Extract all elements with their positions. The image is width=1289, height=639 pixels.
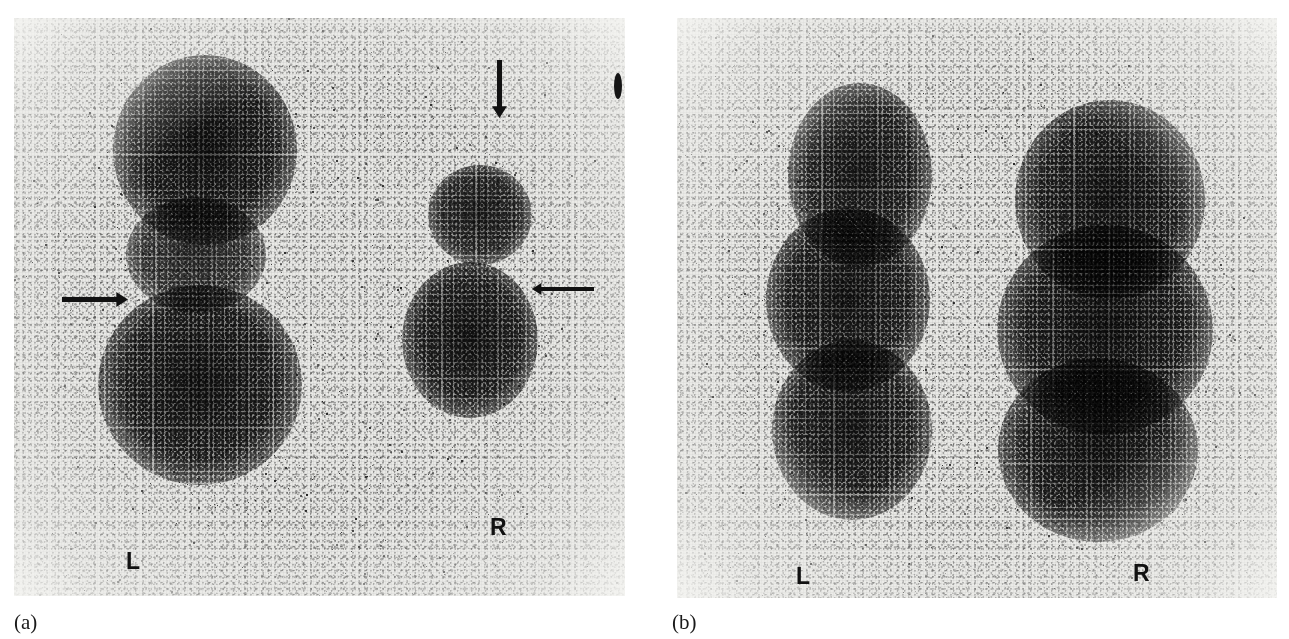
film-grain-fine	[677, 18, 1277, 598]
background-scatter-counts	[677, 18, 1277, 598]
uptake-region-left-kidney-lower	[772, 340, 932, 520]
background-scatter-counts	[14, 18, 625, 596]
scintigram-panel-b: LR	[677, 18, 1277, 598]
panel-caption-a: (a)	[14, 612, 37, 633]
film-grain-coarse	[677, 18, 1277, 598]
photon-speckle-left-kidney-mid	[126, 197, 266, 313]
film-edge-artifact	[614, 73, 622, 99]
photon-speckle-left-kidney-mid	[766, 208, 930, 392]
scintigram-panel-a: LR	[14, 18, 625, 596]
photon-speckle-right-kidney-lower	[998, 358, 1198, 542]
film-vignette	[14, 18, 625, 596]
orientation-marker-r: R	[1133, 562, 1150, 585]
uptake-region-right-kidney-upper-pole	[428, 165, 532, 265]
arrow-right-left-kidney-notch-icon	[62, 292, 128, 307]
halftone-screen	[14, 18, 625, 596]
uptake-region-left-kidney-mid	[126, 197, 266, 313]
photon-speckle-right-kidney-upper	[1015, 100, 1205, 300]
uptake-region-left-kidney-lower-pole	[98, 285, 302, 485]
uptake-region-right-kidney-upper	[1015, 100, 1205, 300]
orientation-marker-l: L	[796, 565, 811, 588]
photon-speckle-left-kidney-lower-pole	[98, 285, 302, 485]
film-grain-coarse	[14, 18, 625, 596]
uptake-region-left-kidney-mid	[766, 208, 930, 392]
orientation-marker-l: L	[126, 550, 141, 573]
orientation-marker-r: R	[490, 516, 507, 539]
photon-speckle-left-kidney-upper-pole	[113, 55, 297, 245]
photon-speckle-right-kidney-mid	[997, 225, 1213, 435]
film-grain-fine	[14, 18, 625, 596]
photon-speckle-right-kidney-upper-pole	[428, 165, 532, 265]
arrow-left-right-kidney-contour-icon	[532, 281, 594, 293]
arrow-down-right-upper-pole-icon	[492, 60, 507, 118]
photon-speckle-right-kidney-lower-pole	[402, 262, 538, 418]
halftone-screen	[677, 18, 1277, 598]
uptake-region-right-kidney-mid	[997, 225, 1213, 435]
uptake-region-right-kidney-lower	[998, 358, 1198, 542]
photon-speckle-left-kidney-lower	[772, 340, 932, 520]
panel-caption-b: (b)	[672, 612, 697, 633]
photon-speckle-left-kidney-upper	[788, 83, 932, 267]
film-vignette	[677, 18, 1277, 598]
figure-root: LR LR (a) (b)	[0, 0, 1289, 639]
uptake-region-left-kidney-upper-pole	[113, 55, 297, 245]
uptake-region-right-kidney-lower-pole	[402, 262, 538, 418]
uptake-region-left-kidney-upper	[788, 83, 932, 267]
